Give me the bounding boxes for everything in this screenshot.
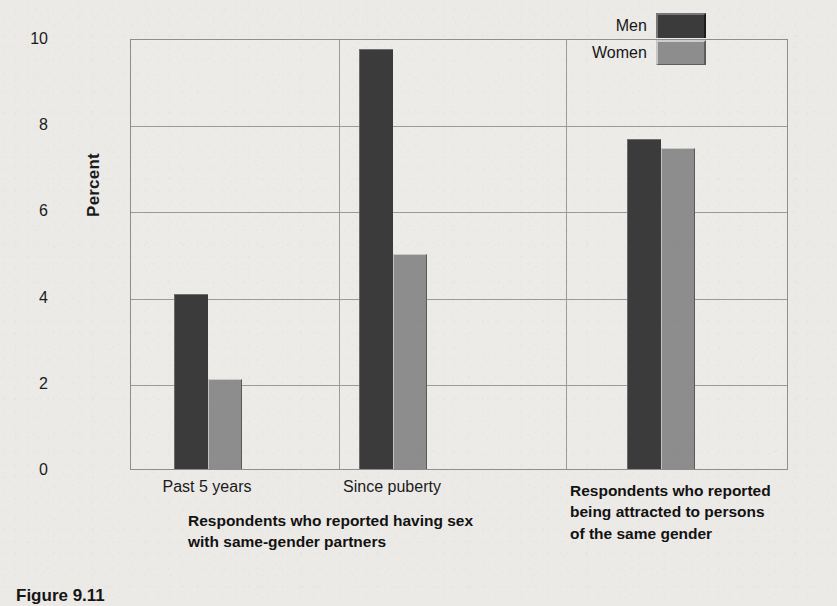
chart-legend: Men Women — [592, 12, 706, 66]
gridline-y-8 — [131, 126, 787, 127]
x-tick-label-2: Since puberty — [343, 478, 441, 496]
y-tick-label-0: 0 — [8, 461, 48, 479]
group-separator-2 — [566, 40, 567, 469]
bar-men-group-3 — [627, 139, 661, 469]
women-swatch-icon — [656, 40, 706, 65]
plot-area — [130, 39, 788, 470]
bar-women-group-3 — [661, 148, 695, 469]
men-swatch-icon — [656, 13, 706, 38]
bar-women-group-2 — [393, 254, 427, 470]
y-tick-label-10: 10 — [8, 30, 48, 48]
legend-item-men: Men — [592, 12, 706, 39]
bar-women-group-1 — [208, 379, 242, 470]
legend-label-men: Men — [616, 18, 647, 34]
legend-label-women: Women — [592, 45, 647, 61]
group-caption-attraction: Respondents who reported being attracted… — [570, 480, 820, 544]
legend-item-women: Women — [592, 39, 706, 66]
bar-men-group-1 — [174, 294, 208, 469]
figure-number-label: Figure 9.11 — [16, 586, 105, 606]
group-caption-sex: Respondents who reported having sex with… — [188, 510, 518, 553]
y-tick-label-2: 2 — [8, 375, 48, 393]
bar-men-group-2 — [359, 49, 393, 469]
y-tick-label-4: 4 — [8, 289, 48, 307]
y-tick-label-8: 8 — [8, 116, 48, 134]
group-separator-1 — [339, 40, 340, 469]
x-tick-label-1: Past 5 years — [163, 478, 252, 496]
y-tick-label-6: 6 — [8, 202, 48, 220]
